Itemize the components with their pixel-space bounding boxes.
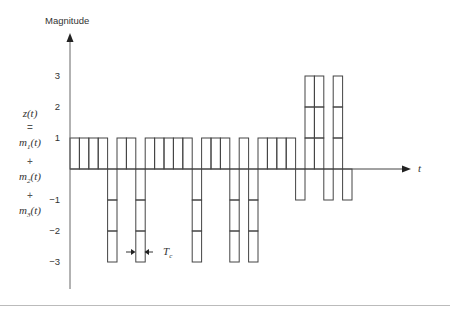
chip-box xyxy=(333,76,342,107)
chip-box xyxy=(192,169,201,200)
x-axis-arrow-icon xyxy=(402,166,411,173)
chip-box xyxy=(267,138,276,169)
chip-box xyxy=(98,138,107,169)
x-axis-label: t xyxy=(418,162,421,174)
m2-label: m2(t) xyxy=(8,169,52,189)
chip-box xyxy=(145,138,154,169)
chip-box xyxy=(108,231,117,262)
chip-box xyxy=(343,169,352,200)
chip-box xyxy=(305,76,314,107)
y-axis-label: Magnitude xyxy=(45,15,89,26)
chip-box xyxy=(136,200,145,231)
chip-box xyxy=(314,76,323,107)
chip-box xyxy=(164,138,173,169)
chip-box xyxy=(230,231,239,262)
y-tick-neg2: −2 xyxy=(40,225,60,236)
tc-label: Tc xyxy=(163,245,172,260)
chip-box xyxy=(220,138,229,169)
chip-box xyxy=(211,138,220,169)
chip-box xyxy=(136,169,145,200)
chip-box xyxy=(117,138,126,169)
chip-box xyxy=(239,138,248,169)
chip-box xyxy=(249,169,258,200)
y-tick-neg3: −3 xyxy=(40,256,60,267)
chip-box xyxy=(314,107,323,138)
m3-label: m3(t) xyxy=(8,203,52,223)
chip-box xyxy=(258,138,267,169)
chip-box xyxy=(192,200,201,231)
chip-box xyxy=(202,138,211,169)
tc-annotation xyxy=(126,249,153,255)
chip-box xyxy=(89,138,98,169)
signal-equation-label: z(t) = m1(t) + m2(t) + m3(t) xyxy=(8,106,52,223)
chip-box xyxy=(230,169,239,200)
chip-box xyxy=(108,169,117,200)
chip-box xyxy=(70,138,79,169)
bottom-divider xyxy=(0,305,450,306)
chip-box xyxy=(324,169,333,200)
chip-box xyxy=(108,200,117,231)
m1-label: m1(t) xyxy=(8,135,52,155)
chip-box xyxy=(286,138,295,169)
z-t-label: z(t) xyxy=(8,106,52,121)
chip-box xyxy=(173,138,182,169)
chip-box xyxy=(314,138,323,169)
equals-sign: = xyxy=(8,121,52,136)
chip-box xyxy=(249,200,258,231)
y-axis-arrow-icon xyxy=(67,33,74,42)
chip-box xyxy=(230,200,239,231)
signal-diagram xyxy=(0,0,450,311)
chip-box xyxy=(79,138,88,169)
chip-box xyxy=(155,138,164,169)
chip-box xyxy=(249,231,258,262)
y-tick-3: 3 xyxy=(40,70,60,81)
chip-box xyxy=(192,231,201,262)
chip-box xyxy=(136,231,145,262)
chip-box xyxy=(305,107,314,138)
plus-sign-2: + xyxy=(8,189,52,204)
chip-box xyxy=(333,107,342,138)
arrow-right-icon xyxy=(131,249,136,255)
chip-box xyxy=(333,138,342,169)
chip-box xyxy=(183,138,192,169)
chip-box xyxy=(296,169,305,200)
chip-box xyxy=(126,138,135,169)
chip-box xyxy=(277,138,286,169)
chip-box xyxy=(305,138,314,169)
plus-sign-1: + xyxy=(8,155,52,170)
